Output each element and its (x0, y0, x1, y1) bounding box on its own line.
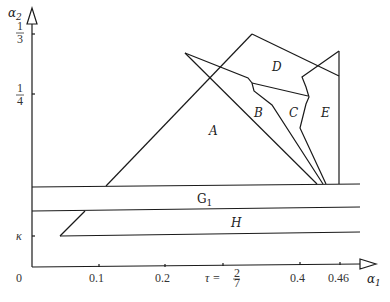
svg-text:1: 1 (17, 19, 23, 33)
kappa-tick-label: κ (16, 229, 22, 243)
region-d-label: D (271, 60, 282, 74)
svg-text:τ =: τ = (205, 271, 220, 285)
origin-label: 0 (16, 271, 22, 285)
region-b-label: B (253, 106, 263, 120)
svg-text:0.4: 0.4 (290, 271, 305, 285)
a-left-boundary (106, 34, 252, 186)
svg-text:0.2: 0.2 (155, 271, 170, 285)
svg-text:3: 3 (17, 32, 23, 46)
svg-text:1: 1 (17, 81, 23, 95)
svg-text:7: 7 (234, 276, 240, 290)
region-diagram: A B C D E G1 H α2 α1 1 3 1 4 κ 0 0.1 0.2… (0, 0, 390, 302)
x-axis-label: α1 (367, 272, 381, 288)
svg-text:0.46: 0.46 (328, 271, 349, 285)
c-e-boundary (300, 51, 339, 184)
c-d-boundary (252, 83, 308, 96)
region-c-label: C (289, 106, 298, 120)
region-e-label: E (320, 106, 330, 120)
d-top-boundary (252, 34, 339, 76)
y-axis-arrow-icon (27, 8, 37, 24)
region-g1-label: G1 (197, 192, 212, 208)
g1-top-boundary (32, 184, 360, 187)
region-h-label: H (230, 216, 242, 230)
g1-bottom-boundary (32, 207, 360, 211)
x-axis-arrow-icon (360, 259, 376, 269)
h-bottom-boundary (60, 232, 360, 236)
h-left-boundary (60, 211, 85, 236)
region-a-label: A (208, 124, 218, 138)
x-axis (32, 264, 360, 267)
svg-text:0.1: 0.1 (89, 271, 104, 285)
svg-text:4: 4 (17, 94, 23, 108)
